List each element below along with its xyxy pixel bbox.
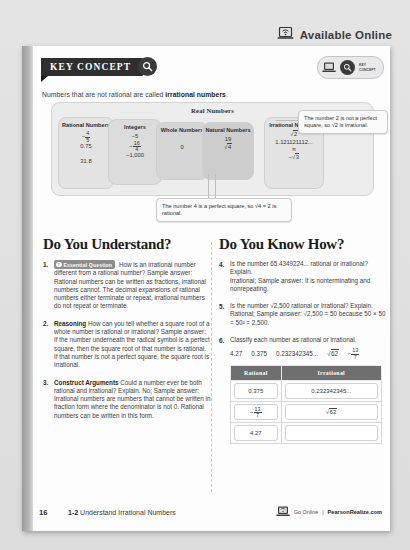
callout-number-two: The number 2 is not a perfect square, so… [298,110,388,134]
classify-table: Rational Irrational 0.375 0.232342345... [230,365,382,444]
available-online-label: Available Online [300,29,392,41]
rational-values: −45 0.75 31.8 [80,131,91,165]
page-footer: 16 1-2 Understand Irrational Numbers [33,503,390,521]
cell-value: 0.232342345... [285,383,378,399]
footer-laptop-wifi-icon [276,506,290,518]
question-6-body: Classify each number as rational or irra… [230,336,387,444]
page-sheet: KEY CONCEPT [22,46,390,531]
question-4-answer: Irrational; Sample answer: It is nonterm… [230,277,370,292]
rational-value-2: 0.75 [80,143,91,149]
question-2-number: 2. [43,320,54,370]
table-cell-irrational-2[interactable]: √62 [281,402,381,423]
table-header-rational: Rational [231,366,282,381]
column-divider [211,242,212,492]
integers-box: Integers −5 −164 −1,000 [108,119,162,185]
do-you-understand-column: Do You Understand? 1. ?Essential Questio… [43,236,211,429]
q6-number-0: 4.27 [230,350,242,358]
understand-heading: Do You Understand? [43,236,211,253]
irrational-value-2: 1.121121112... [275,139,312,145]
go-online-label: Go Online [294,509,318,515]
key-concept-label: KEY CONCEPT [50,62,131,72]
integers-values: −5 −164 −1,000 [126,133,144,160]
question-3-label: Construct Arguments [54,379,119,386]
table-cell-irrational-1[interactable]: 0.232342345... [281,381,381,402]
table-cell-rational-3[interactable]: 4.27 [231,423,282,444]
essential-question-badge: ?Essential Question [54,260,115,269]
question-3-number: 3. [43,379,54,420]
available-online-strip: Available Online [0,26,410,44]
essential-question-label: Essential Question [64,261,113,269]
question-6-prompt: Classify each number as rational or irra… [230,336,356,343]
know-how-heading: Do You Know How? [219,236,387,253]
table-header-irrational: Irrational [281,366,381,381]
table-row: 0.375 0.232342345... [231,381,382,402]
callout-leader-two [276,120,300,121]
question-4: 4. Is the number 65.4349224... rational … [219,260,387,293]
integers-value-1: −5 [132,133,139,139]
table-row: 4.27 [231,423,382,444]
rational-value-3: 31.8 [80,158,91,164]
question-4-prompt: Is the number 65.4349224... rational or … [230,260,368,275]
callout-number-four: The number 4 is a perfect square, so √4 … [156,198,292,222]
irrational-values: √2 1.121121112... π −√3 [275,131,312,161]
footer-separator: | [322,509,323,515]
key-concept-banner: KEY CONCEPT [41,58,153,76]
natural-numbers-box: Natural Numbers 19 √4 [202,122,254,180]
badge-magnifier-icon [340,60,355,75]
table-cell-irrational-3[interactable] [281,423,381,444]
lead-bold: irrational numbers [165,91,226,98]
natural-radical: √4 [224,143,231,150]
question-1: 1. ?Essential Question How is an irratio… [43,260,211,311]
natural-value-1: 19 [225,136,231,142]
irrational-value-pi: π [292,146,296,152]
question-2-body: Reasoning How can you tell whether a squ… [54,320,211,370]
integers-fraction: 164 [133,141,141,153]
lead-pre: Numbers that are not rational are called [42,91,165,98]
question-4-number: 4. [219,260,230,293]
q6-number-3: √62 [327,350,338,358]
question-6-number: 6. [219,336,230,444]
whole-title: Whole Numbers [161,127,204,134]
rational-numbers-box: Rational Numbers −45 0.75 31.8 [58,117,114,189]
q6-number-1: 0.375 [251,350,267,358]
lead-post: . [226,91,228,98]
table-cell-rational-2[interactable]: −137 [231,402,282,423]
textbook-page: Available Online KEY CONCEPT [0,0,410,550]
table-header-row: Rational Irrational [231,366,382,381]
q6-number-4: −137 [348,348,360,360]
callout-leader-four-v2 [215,174,216,198]
table-cell-rational-1[interactable]: 0.375 [231,381,282,402]
question-5-number: 5. [219,302,230,327]
q6-number-2: 0.232342345... [276,350,318,358]
table-row: −137 √62 [231,402,382,423]
question-1-body: ?Essential Question How is an irrational… [54,260,211,311]
site-label: PearsonRealize.com [328,509,382,515]
question-mark-icon: ? [56,262,62,268]
magnifier-icon[interactable] [138,57,157,76]
laptop-icon [322,59,336,77]
question-5: 5. Is the number √2,500 rational or irra… [219,302,387,327]
key-concept-lead: Numbers that are not rational are called… [42,91,372,98]
integers-value-3: −1,000 [126,152,144,158]
question-1-number: 1. [43,260,54,311]
natural-values: 19 √4 [224,136,231,151]
question-2: 2. Reasoning How can you tell whether a … [43,320,211,370]
cell-value: √62 [285,404,378,420]
integers-title: Integers [124,124,146,131]
footer-online[interactable]: Go Online | PearsonRealize.com [276,506,382,518]
irrational-radical-1: √2 [290,130,297,137]
callout-leader-four-v [208,174,209,198]
question-4-body: Is the number 65.4349224... rational or … [230,260,387,293]
question-5-prompt: Is the number √2,500 rational or irratio… [230,302,373,309]
do-you-know-how-column: Do You Know How? 4. Is the number 65.434… [219,236,387,453]
qa-columns: Do You Understand? 1. ?Essential Questio… [33,236,390,496]
question-5-body: Is the number √2,500 rational or irratio… [230,302,387,327]
whole-numbers-box: Whole Numbers 0 [156,122,208,180]
question-5-answer: Rational; Sample answer: √2,500 = 50 bec… [230,310,385,325]
question-6: 6. Classify each number as rational or i… [219,336,387,444]
key-concept-tools-badge[interactable]: KEY CONCEPT [317,56,384,79]
banner-tail [41,76,48,82]
cell-value [285,425,378,441]
question-3-body: Construct Arguments Could a number ever … [54,379,211,420]
cell-value: 4.27 [234,425,278,441]
